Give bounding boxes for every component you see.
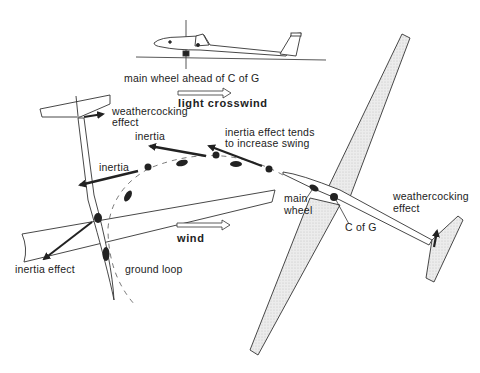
side-fuselage — [154, 35, 288, 56]
ground-loop-diagram — [0, 0, 480, 373]
left-wheel — [103, 247, 110, 261]
label-weathercocking-right: weathercocking — [393, 191, 469, 202]
label-main-wheel-ahead: main wheel ahead of C of G — [124, 73, 259, 84]
path-dot — [266, 166, 273, 173]
right-lower-wing — [250, 198, 340, 355]
label-main-wheel-1: main — [284, 193, 308, 204]
label-inertia-top: inertia — [135, 131, 165, 142]
left-main-wing — [22, 190, 275, 262]
path-skid — [175, 159, 188, 168]
side-main-wheel — [183, 51, 189, 56]
label-ground-loop: ground loop — [125, 264, 183, 275]
path-skid — [122, 189, 133, 202]
label-inertia-increase-2: to increase swing — [225, 138, 310, 149]
left-fuselage — [78, 118, 114, 300]
label-main-wheel-2: wheel — [284, 205, 312, 216]
label-inertia-left: inertia — [99, 162, 129, 173]
label-weathercocking-right-effect: effect — [393, 203, 420, 214]
right-upper-wing — [327, 34, 410, 197]
path-skid — [230, 161, 242, 167]
right-cg-dot — [330, 193, 338, 201]
inertia-top-arrow — [150, 146, 206, 156]
label-light-crosswind: light crosswind — [178, 98, 268, 109]
path-dot — [145, 164, 152, 171]
side-view-glider — [136, 20, 326, 69]
path-dot — [213, 152, 220, 159]
side-fin — [280, 33, 301, 56]
right-tailplane — [426, 216, 463, 282]
label-c-of-g: C of G — [345, 222, 377, 233]
label-inertia-effect: inertia effect — [15, 264, 75, 275]
side-tailplane — [291, 33, 301, 36]
label-weathercocking-left-effect: effect — [112, 117, 139, 128]
label-wind: wind — [177, 233, 204, 244]
left-cg-dot — [94, 213, 102, 223]
ground-line — [136, 57, 326, 60]
